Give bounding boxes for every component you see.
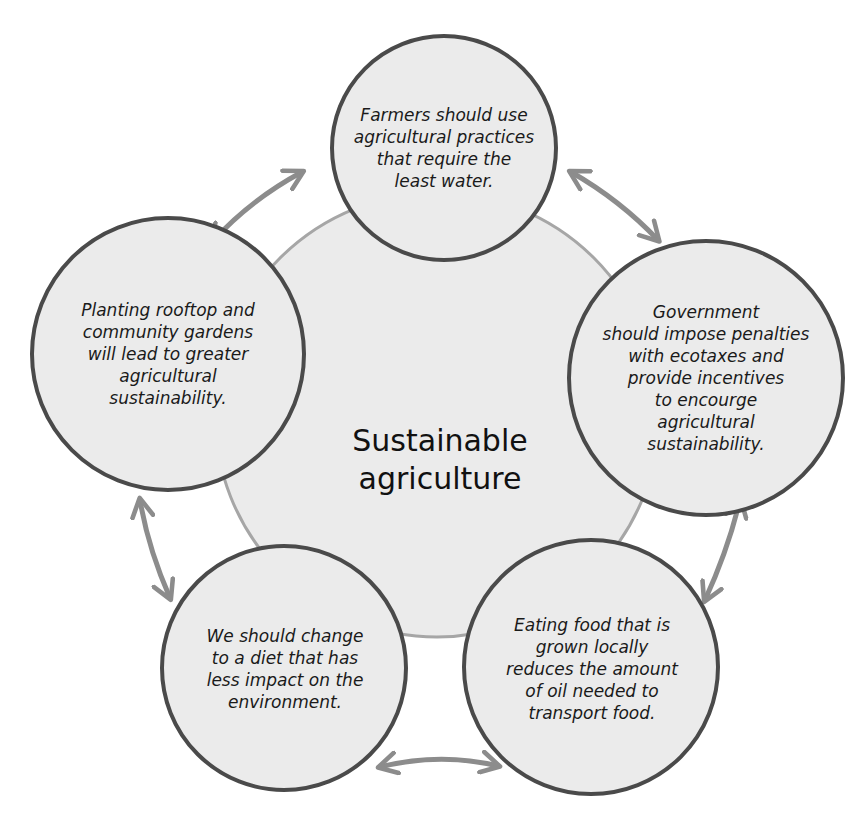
node-text-left: Planting rooftop and community gardens w… — [40, 228, 296, 480]
node-text-top: Farmers should use agricultural practice… — [334, 48, 554, 248]
arrow-bottomleft-left — [140, 500, 170, 598]
sustainable-agriculture-diagram: Sustainable agriculture Farmers should u… — [0, 0, 857, 824]
arrow-top-right — [571, 172, 658, 240]
node-text-bottom-right: Eating food that is grown locally reduce… — [474, 556, 710, 782]
node-text-bottom-left: We should change to a diet that has less… — [172, 556, 398, 782]
center-title: Sustainable agriculture — [310, 400, 570, 520]
node-text-right: Government should impose penalties with … — [578, 250, 834, 506]
